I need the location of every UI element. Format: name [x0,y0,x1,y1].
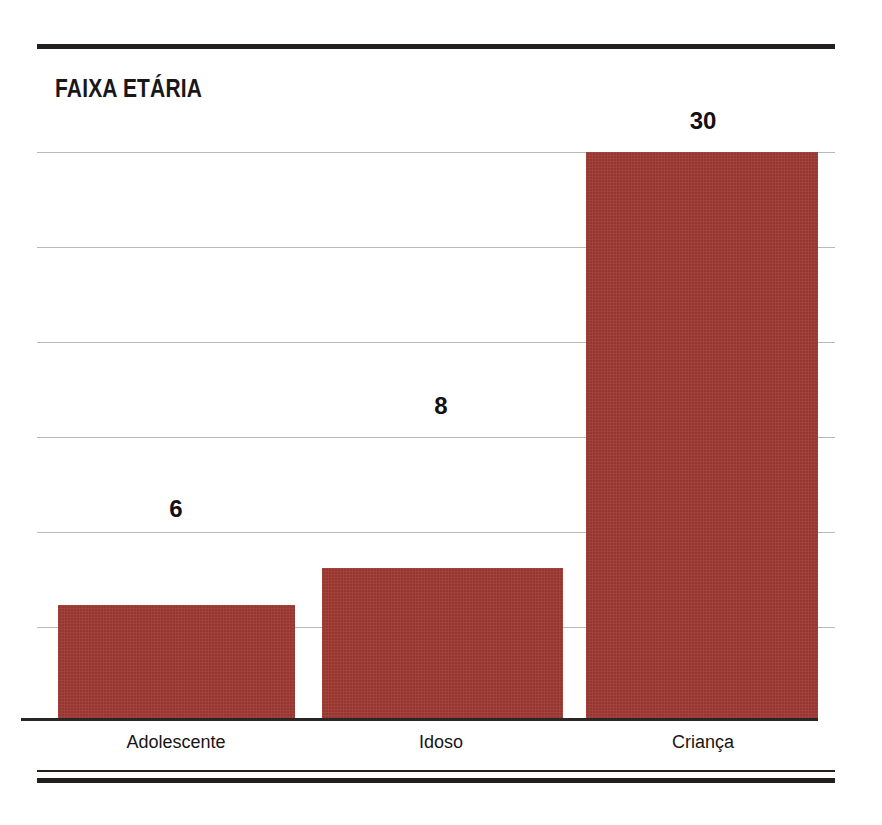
value-label-crianca: 30 [690,107,717,135]
bar-idoso[interactable] [322,568,563,718]
top-rule-divider [37,44,835,49]
bottom-rule-thick [37,778,835,783]
category-label-adolescente: Adolescente [126,732,225,753]
value-label-idoso: 8 [434,392,447,420]
value-label-adolescente: 6 [169,495,182,523]
x-axis-line [21,718,818,721]
category-label-idoso: Idoso [419,732,463,753]
chart-figure: FAIXA ETÁRIA 6 8 30 Adolescente Idoso Cr… [0,0,882,825]
category-label-crianca: Criança [672,732,734,753]
bottom-rule-thin [37,770,835,772]
bar-crianca[interactable] [586,152,818,718]
bar-adolescente[interactable] [58,605,295,718]
chart-title: FAIXA ETÁRIA [55,74,202,103]
